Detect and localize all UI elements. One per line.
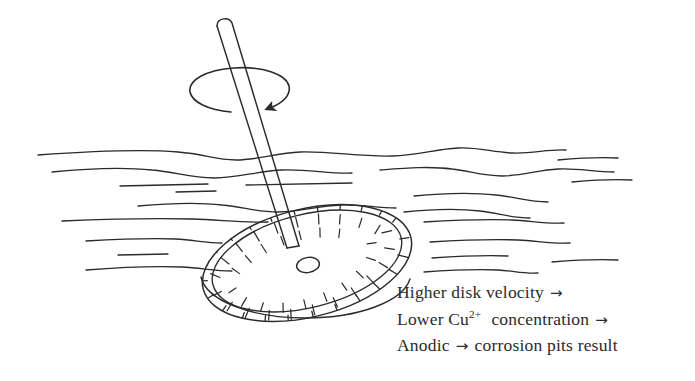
- rotation-direction-arrow: [190, 68, 289, 112]
- rotating-shaft: [217, 19, 299, 248]
- disk-hatch-mid: [200, 196, 407, 338]
- annotation-line-1: Higher disk velocity→: [397, 280, 687, 307]
- diagram-canvas: Higher disk velocity→ Lower Cu2+concentr…: [0, 0, 695, 381]
- annotation-text-block: Higher disk velocity→ Lower Cu2+concentr…: [397, 280, 687, 360]
- annotation-line-3: Anodic→corrosion pits result: [397, 333, 687, 360]
- annotation-line-2: Lower Cu2+concentration→: [397, 307, 687, 334]
- annotation-3-text: Anodic: [397, 335, 450, 355]
- annotation-2-superscript: 2+: [469, 308, 481, 320]
- annotation-2-text: Lower Cu: [397, 309, 469, 329]
- right-arrow-icon: →: [594, 311, 609, 329]
- annotation-2-text-after: concentration: [491, 309, 589, 329]
- annotation-3-tail: corrosion pits result: [475, 335, 618, 355]
- right-arrow-icon: →: [455, 337, 470, 355]
- right-arrow-icon: →: [549, 284, 564, 302]
- disk-center-hole: [295, 256, 320, 275]
- annotation-1-text: Higher disk velocity: [397, 282, 544, 302]
